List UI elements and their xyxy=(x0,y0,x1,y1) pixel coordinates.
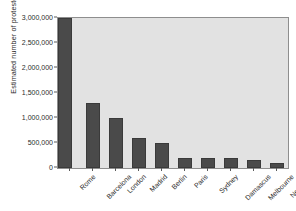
bar xyxy=(247,160,261,169)
x-axis-tick-mark xyxy=(69,168,70,171)
y-axis-tick-label: 2,000,000 xyxy=(22,64,57,71)
y-axis-tick-label: 500,000 xyxy=(28,139,57,146)
bar xyxy=(201,158,215,168)
bar-chart-figure: Estimated number of protestors 0500,0001… xyxy=(0,0,296,211)
bar xyxy=(178,158,192,168)
y-axis-tick-label: 2,500,000 xyxy=(22,39,57,46)
x-axis: RomeBarcelonaLondonMadridBerlinParisSydn… xyxy=(57,168,287,211)
x-axis-tick-mark xyxy=(184,168,185,171)
bar xyxy=(86,103,100,168)
bar xyxy=(224,158,238,168)
bar xyxy=(109,118,123,168)
x-axis-tick-label: Madrid xyxy=(148,173,168,193)
plot-area xyxy=(57,17,289,169)
x-axis-tick-label: Berlin xyxy=(170,173,188,191)
x-axis-tick-mark xyxy=(138,168,139,171)
x-axis-tick-mark xyxy=(230,168,231,171)
x-axis-tick-label: Rome xyxy=(78,173,96,191)
x-axis-tick-mark xyxy=(115,168,116,171)
x-axis-tick-label: Paris xyxy=(192,173,208,189)
x-axis-tick-mark xyxy=(276,168,277,171)
x-axis-tick-mark xyxy=(207,168,208,171)
x-axis-tick-mark xyxy=(92,168,93,171)
y-axis-tick-label: 3,000,000 xyxy=(22,14,57,21)
bar xyxy=(58,18,72,168)
y-axis-title: Estimated number of protestors xyxy=(8,0,20,112)
bar xyxy=(132,138,146,168)
y-axis-tick-label: 1,500,000 xyxy=(22,89,57,96)
x-axis-tick-label: Sydney xyxy=(217,173,238,194)
x-axis-tick-mark xyxy=(161,168,162,171)
bar xyxy=(155,143,169,168)
x-axis-tick-mark xyxy=(253,168,254,171)
y-axis-tick-label: 1,000,000 xyxy=(22,114,57,121)
